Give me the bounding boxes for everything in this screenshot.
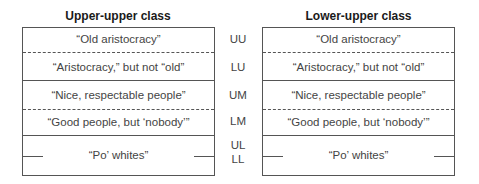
row-aristocracy-not-old: “Aristocracy,” but not “old” bbox=[23, 61, 214, 73]
label-uu: UU bbox=[214, 33, 262, 45]
row-good-people-nobody: “Good people, but ‘nobody’” bbox=[263, 116, 454, 128]
divider-solid bbox=[263, 80, 454, 81]
divider-dashed bbox=[263, 52, 454, 53]
row-po-whites: “Po’ whites” bbox=[263, 149, 454, 161]
row-nice-respectable: “Nice, respectable people” bbox=[263, 89, 454, 101]
row-old-aristocracy: “Old aristocracy” bbox=[263, 33, 454, 45]
divider-dashed bbox=[23, 52, 214, 53]
row-good-people-nobody: “Good people, but ‘nobody’” bbox=[23, 116, 214, 128]
row-nice-respectable: “Nice, respectable people” bbox=[23, 89, 214, 101]
label-lu: LU bbox=[214, 61, 262, 73]
row-aristocracy-not-old: “Aristocracy,” but not “old” bbox=[263, 61, 454, 73]
panel-title-upper-upper: Upper-upper class bbox=[22, 9, 214, 23]
label-lm: LM bbox=[214, 115, 262, 127]
divider-stub-right bbox=[434, 156, 454, 157]
divider-solid bbox=[23, 80, 214, 81]
label-ll: LL bbox=[214, 153, 262, 165]
panel-lower-upper: “Old aristocracy” “Aristocracy,” but not… bbox=[262, 27, 455, 176]
label-ul: UL bbox=[214, 139, 262, 151]
divider-dashed bbox=[263, 109, 454, 110]
divider-dashed bbox=[23, 109, 214, 110]
panel-upper-upper: “Old aristocracy” “Aristocracy,” but not… bbox=[22, 27, 215, 176]
divider-solid bbox=[263, 135, 454, 136]
row-po-whites: “Po’ whites” bbox=[23, 149, 214, 161]
divider-solid bbox=[23, 135, 214, 136]
panel-title-lower-upper: Lower-upper class bbox=[262, 9, 455, 23]
row-old-aristocracy: “Old aristocracy” bbox=[23, 33, 214, 45]
divider-stub-right bbox=[194, 156, 214, 157]
label-um: UM bbox=[214, 89, 262, 101]
